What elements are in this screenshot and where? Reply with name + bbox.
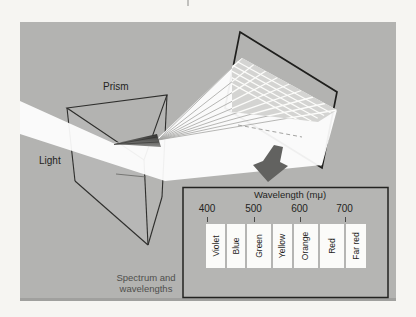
tick-label-600: 600 bbox=[285, 203, 315, 214]
band-green: Green bbox=[247, 224, 272, 268]
tick-mark-700 bbox=[345, 217, 346, 222]
diagram-canvas bbox=[0, 0, 416, 317]
band-blue: Blue bbox=[227, 224, 245, 268]
panel-bottom-edge bbox=[20, 298, 396, 301]
tick-mark-600 bbox=[300, 217, 301, 222]
caption-line-1: Spectrum and bbox=[94, 272, 198, 283]
band-red: Red bbox=[320, 224, 344, 268]
tick-label-500: 500 bbox=[239, 203, 269, 214]
caption-line-2: wavelengths bbox=[94, 283, 198, 294]
band-violet: Violet bbox=[206, 224, 225, 268]
tick-label-700: 700 bbox=[330, 203, 360, 214]
band-orange: Orange bbox=[294, 224, 318, 268]
tick-mark-400 bbox=[207, 217, 208, 222]
prism-spectrum-figure: Prism Light Wavelength (mμ) 400 500 600 … bbox=[0, 0, 416, 317]
tick-label-400: 400 bbox=[192, 203, 222, 214]
band-far-red: Far red bbox=[346, 224, 366, 268]
tick-mark-500 bbox=[254, 217, 255, 222]
prism-label: Prism bbox=[103, 81, 129, 92]
spectrum-caption: Spectrum and wavelengths bbox=[94, 272, 198, 294]
band-yellow: Yellow bbox=[273, 224, 292, 268]
wavelength-title: Wavelength (mμ) bbox=[210, 189, 370, 200]
light-label: Light bbox=[39, 155, 61, 166]
